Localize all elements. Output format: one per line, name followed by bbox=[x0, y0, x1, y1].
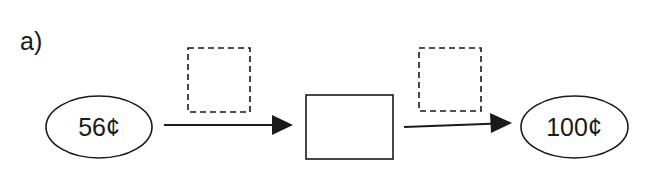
operator-box-2[interactable] bbox=[419, 48, 481, 111]
arrow-diagram: a) 56¢ 100¢ bbox=[0, 0, 646, 193]
operator-box-1[interactable] bbox=[188, 48, 250, 112]
arrow-2-head-icon bbox=[490, 113, 512, 133]
arrow-2 bbox=[404, 113, 512, 133]
start-node: 56¢ bbox=[46, 96, 152, 158]
arrow-1 bbox=[164, 115, 293, 135]
diagram-canvas: a) 56¢ 100¢ bbox=[0, 0, 646, 193]
end-node: 100¢ bbox=[521, 96, 628, 158]
end-value: 100¢ bbox=[546, 113, 602, 141]
part-label: a) bbox=[20, 27, 42, 55]
arrow-1-head-icon bbox=[272, 115, 293, 135]
arrow-2-shaft bbox=[404, 124, 498, 128]
middle-box[interactable] bbox=[306, 95, 393, 159]
start-value: 56¢ bbox=[78, 113, 120, 141]
